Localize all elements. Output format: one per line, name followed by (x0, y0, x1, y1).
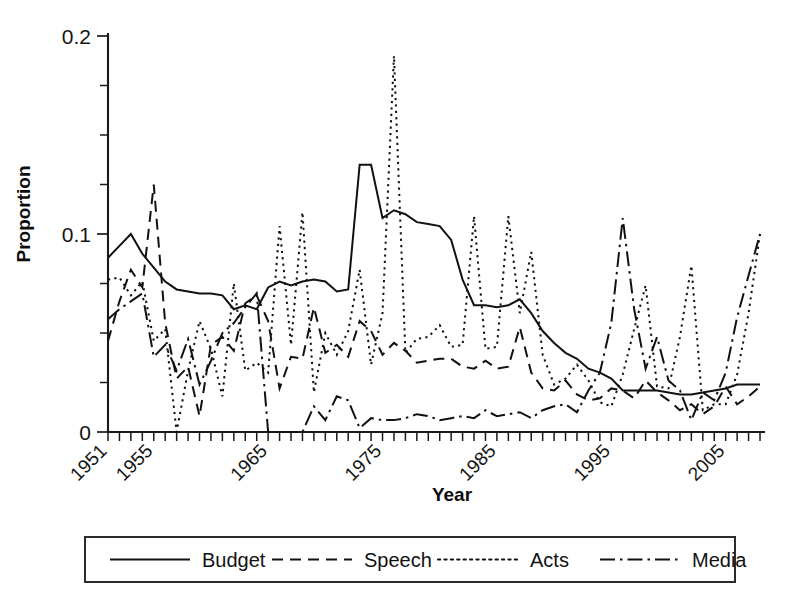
legend-label-budget: Budget (202, 549, 266, 571)
chart-canvas: 00.10.2 1951195519651975198519952005 Yea… (0, 0, 805, 604)
chart-legend: BudgetSpeechActsMedia (85, 537, 747, 582)
y-tick-label: 0.1 (62, 223, 91, 246)
legend-label-speech: Speech (364, 549, 432, 571)
y-axis-title: Proportion (13, 165, 34, 262)
legend-label-acts: Acts (530, 549, 569, 571)
chart-background (0, 0, 805, 604)
line-chart-figure: 00.10.2 1951195519651975198519952005 Yea… (0, 0, 805, 604)
legend-label-media: Media (692, 549, 747, 571)
y-tick-label: 0.2 (62, 25, 91, 48)
x-axis-title: Year (432, 484, 473, 505)
y-tick-label: 0 (79, 421, 91, 444)
